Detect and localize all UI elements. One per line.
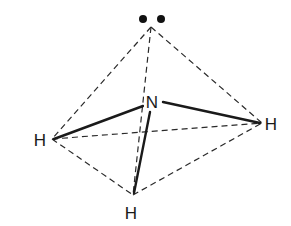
atom-n-label: N	[146, 93, 158, 112]
bond-n-hbottom	[134, 112, 150, 193]
edge-hleft-hbottom	[52, 139, 133, 195]
nh3-tetrahedral-diagram: N H H H	[0, 0, 291, 226]
atom-h-left-label: H	[34, 131, 46, 150]
bond-n-hright	[163, 102, 260, 123]
atom-h-right-label: H	[265, 115, 277, 134]
solid-bonds	[54, 102, 260, 193]
edge-hleft-hright	[52, 123, 262, 139]
edge-hbottom-hright	[133, 123, 262, 195]
bond-n-hleft	[54, 106, 143, 139]
edge-lonepair-hright	[151, 27, 262, 123]
lone-pair-icon	[139, 15, 165, 23]
atom-h-bottom-label: H	[125, 204, 137, 223]
